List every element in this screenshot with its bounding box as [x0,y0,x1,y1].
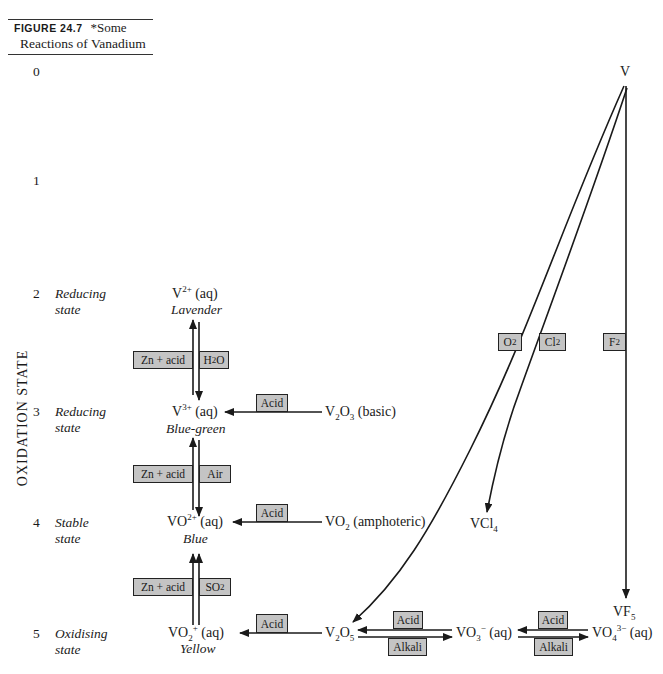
v2o5-a: V [325,625,335,640]
vf5-a: VF [613,604,631,619]
species-vo2-plus-yellow: VO2+ (aq) [168,625,224,641]
color-lavender: Lavender [171,302,222,318]
reagent-alkali-vo3: Alkali [388,638,427,656]
reagent-zn-acid-2: Zn + acid [133,465,193,483]
reagent-zn-acid-1: Zn + acid [133,351,193,369]
v2o3-a: V [325,404,335,419]
v3-charge: 3+ [182,402,192,412]
species-vcl4: VCl4 [470,516,498,532]
vcl4-a: VCl [470,516,493,531]
vo2plus-tail: (aq) [198,625,224,640]
so2-a: SO [205,581,220,593]
h2o-b: O [216,354,224,366]
vo2p-charge: 2+ [187,512,197,522]
o2-a: O [504,336,512,348]
cl2-a: Cl [545,336,556,348]
v2o3-b: O [340,404,350,419]
v2-charge: 2+ [182,284,192,294]
vf5-s1: 5 [631,612,636,622]
color-blue: Blue [183,531,208,547]
v2o5-s2: 5 [350,633,355,643]
reagent-acid-v2o5: Acid [256,614,288,633]
reagent-acid-vo3: Acid [393,611,423,629]
vcl4-s1: 4 [493,524,498,534]
vo4-s1: 4 [612,633,617,643]
species-vo2plus: VO2+ (aq) [167,514,223,530]
vo4-tail: (aq) [626,625,652,640]
vo2-tail: (amphoteric) [350,514,426,529]
v2o3-tail: (basic) [354,404,396,419]
species-v: V [620,64,630,80]
v3-base: V [172,404,182,419]
species-v2o5: V2O5 [325,625,354,641]
reagent-o2: O2 [498,333,522,351]
species-v2plus: V2+ (aq) [172,286,218,302]
reagent-acid-v2o3: Acid [256,394,288,412]
vo2p-base: VO [167,514,187,529]
reagent-zn-acid-3: Zn + acid [133,578,193,596]
color-blue-green: Blue-green [166,421,225,437]
species-vo3-minus: VO3− (aq) [456,625,512,641]
vo2plus-base: VO [168,625,188,640]
v2-tail: (aq) [192,286,218,301]
vo4-charge: 3− [617,623,627,633]
species-vo4-3minus: VO43− (aq) [592,625,652,641]
reagent-air: Air [199,465,231,483]
h2o-a: H [203,354,211,366]
reagent-cl2: Cl2 [539,333,566,351]
vo2p-tail: (aq) [197,514,223,529]
v3-tail: (aq) [192,404,218,419]
reagent-h2o: H2O [199,351,229,369]
reagent-so2: SO2 [199,578,231,596]
reagent-f2: F2 [603,333,626,351]
species-v3plus: V3+ (aq) [172,404,218,420]
vo3-a: VO [456,625,476,640]
color-yellow: Yellow [180,641,216,657]
vo2-a: VO [325,514,345,529]
species-vf5: VF5 [613,604,635,620]
species-vo2: VO2 (amphoteric) [325,514,426,530]
reagent-acid-vo2: Acid [256,504,288,522]
v2-base: V [172,286,182,301]
vo3-tail: (aq) [486,625,512,640]
reagent-alkali-vo4: Alkali [534,638,573,656]
vo4-a: VO [592,625,612,640]
v2o5-b: O [340,625,350,640]
species-v2o3: V2O3 (basic) [325,404,396,420]
reagent-acid-vo4: Acid [538,611,568,629]
vo3-s1: 3 [476,633,481,643]
